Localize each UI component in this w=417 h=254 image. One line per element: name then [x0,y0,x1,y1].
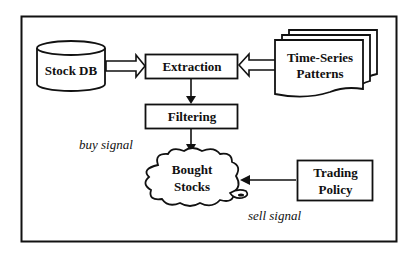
bought-stocks-cloud [145,148,238,206]
buy-signal-annotation: buy signal [79,137,133,153]
arrow-policy-to-bought [240,175,250,185]
stock-db-label: Stock DB [37,63,105,78]
diagram-canvas [0,0,417,254]
trading-policy-label-line2: Policy [298,182,373,197]
arrow-extraction-to-filtering [186,96,196,104]
extraction-label: Extraction [146,59,238,74]
bought-stocks-label-line2: Stocks [155,179,229,194]
trading-policy-label-line1: Trading [298,165,373,180]
sell-signal-annotation: sell signal [248,208,301,224]
arrow-db-to-extraction [106,55,145,77]
filtering-label: Filtering [146,109,238,124]
time-series-label-line2: Patterns [276,66,364,81]
time-series-label-line1: Time-Series [276,50,364,65]
arrow-patterns-to-extraction [239,54,276,76]
bought-stocks-label-line1: Bought [155,162,229,177]
